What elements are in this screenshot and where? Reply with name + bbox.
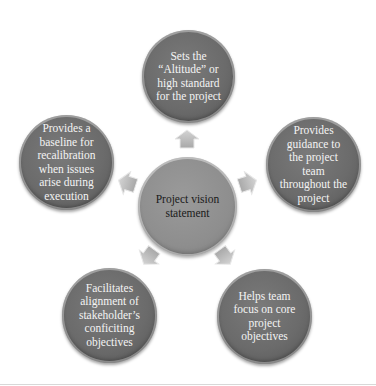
arrow-up-icon (174, 129, 200, 149)
node-right-label: Provides guidance to the project team th… (276, 124, 351, 205)
arrow-right-icon (234, 168, 261, 199)
center-node-label: Project vision statement (152, 193, 224, 220)
center-node: Project vision statement (138, 157, 237, 256)
node-bottom-left-label: Facilitates alignment of stakeholder’s c… (75, 282, 144, 350)
node-top: Sets the “Altitude” or high standard for… (142, 30, 235, 123)
bottom-divider (0, 384, 376, 385)
node-left-label: Provides a baseline for recalibration wh… (33, 122, 99, 203)
node-bottom-right: Helps team focus on core project objecti… (217, 269, 312, 364)
node-bottom-left: Facilitates alignment of stakeholder’s c… (62, 268, 157, 363)
node-left: Provides a baseline for recalibration wh… (19, 115, 114, 210)
arrow-left-icon (113, 168, 140, 199)
node-right: Provides guidance to the project team th… (266, 117, 361, 212)
node-top-label: Sets the “Altitude” or high standard for… (152, 50, 225, 104)
node-bottom-right-label: Helps team focus on core project objecti… (230, 290, 300, 344)
